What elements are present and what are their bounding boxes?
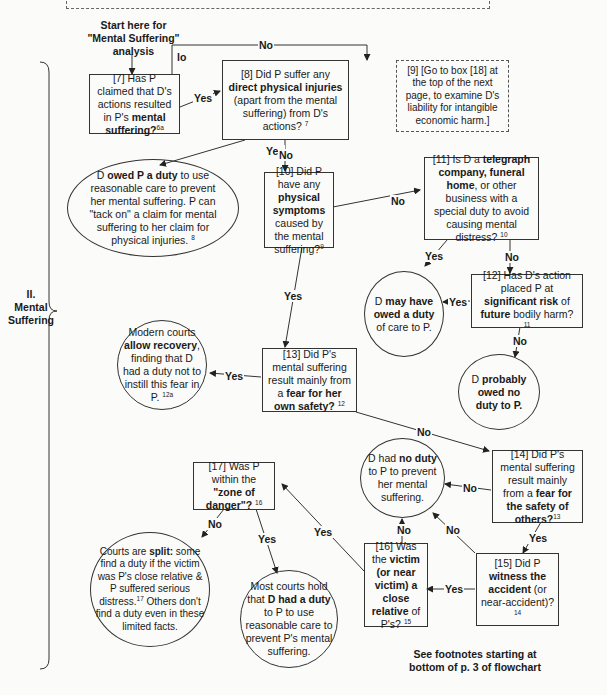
- edge-label-13-to-modern: Yes: [224, 370, 244, 382]
- outcome-most-text: Most courts hold that D had a duty to P …: [245, 580, 333, 658]
- edge-label-17-to-split: No: [207, 518, 223, 530]
- section-title-line1: Mental: [5, 301, 57, 314]
- node-14-text: [14] Did P's mental suffering result mai…: [497, 448, 578, 526]
- start-label: Start here for "Mental Suffering" analys…: [76, 19, 191, 58]
- node-10-text: [10] Did P have any physical symptoms ca…: [269, 165, 329, 256]
- edge-label-15-to-16: Yes: [444, 583, 464, 595]
- edge-label-11-to-may: Yes: [424, 250, 444, 262]
- edge-label-7-stub: lo: [176, 51, 187, 63]
- edge-label-17-to-most: Yes: [257, 533, 277, 545]
- outcome-courts-split[interactable]: Courts are split: some find a duty if th…: [90, 532, 210, 647]
- edge-label-16-to-17: Yes: [313, 526, 333, 538]
- section-title-line2: Suffering: [5, 314, 57, 327]
- edge-label-7-to-9: No: [258, 39, 274, 51]
- node-8-direct-physical-injuries[interactable]: [8] Did P suffer any direct physical inj…: [222, 60, 349, 140]
- edge-label-14-to-15: Yes: [528, 532, 548, 544]
- node-17-text: [17] Was P within the "zone of danger"? …: [198, 460, 270, 512]
- edge-label-11-to-12: No: [504, 251, 520, 263]
- node-16-text: [16] Was the victim (or near victim) a c…: [369, 540, 423, 631]
- node-11-text: [11] Is D a telegraph company, funeral h…: [429, 153, 534, 244]
- section-label: II. Mental Suffering: [5, 288, 57, 327]
- edge-label-12-to-prob: No: [512, 335, 528, 347]
- edge-label-12-to-may: Yes: [448, 296, 468, 308]
- node-9-go-to-box-18[interactable]: [9] [Go to box [18] at the top of the ne…: [396, 60, 509, 132]
- node-16-close-relative[interactable]: [16] Was the victim (or near victim) a c…: [364, 543, 428, 627]
- node-9-text: [9] [Go to box [18] at the top of the ne…: [401, 65, 504, 128]
- edge-label-8-to-10: No: [278, 149, 294, 161]
- node-7-claimed-mental-suffering[interactable]: [7] Has P claimed that D's actions resul…: [89, 74, 180, 134]
- outcome-no-duty[interactable]: D had no duty to P to prevent her mental…: [360, 438, 445, 518]
- outcome-probably-no-duty[interactable]: D probably owed no duty to P.: [458, 354, 540, 430]
- start-line3: analysis: [76, 45, 191, 58]
- node-13-fear-own-safety[interactable]: [13] Did P's mental suffering result mai…: [262, 348, 357, 412]
- edge-label-10-to-11: No: [390, 195, 406, 207]
- start-line1: Start here for: [76, 19, 191, 32]
- start-line2: "Mental Suffering": [76, 32, 191, 45]
- outcome-may-have-owed-duty[interactable]: D may have owed a duty of care to P.: [364, 271, 444, 357]
- node-14-fear-safety-others[interactable]: [14] Did P's mental suffering result mai…: [492, 450, 583, 523]
- footnote-reference: See footnotes starting at bottom of p. 3…: [395, 648, 555, 674]
- node-11-special-duty-business[interactable]: [11] Is D a telegraph company, funeral h…: [424, 157, 539, 240]
- node-13-text: [13] Did P's mental suffering result mai…: [267, 348, 352, 413]
- edge-label-16-to-noduty: No: [396, 524, 412, 536]
- outcome-owed-duty[interactable]: D owed P a duty to use reasonable care t…: [67, 159, 239, 257]
- node-7-text: [7] Has P claimed that D's actions resul…: [94, 72, 175, 137]
- outcome-owed-duty-text: D owed P a duty to use reasonable care t…: [82, 169, 224, 247]
- edge-label-13-to-14: No: [416, 426, 432, 438]
- node-15-witness-accident[interactable]: [15] Did P witness the accident (or near…: [476, 553, 559, 626]
- outcome-split-text: Courts are split: some find a duty if th…: [95, 546, 205, 634]
- edge-label-15-to-noduty: No: [445, 524, 461, 536]
- node-8-text: [8] Did P suffer any direct physical inj…: [227, 68, 344, 133]
- outcome-probably-text: D probably owed no duty to P.: [467, 373, 531, 412]
- footnote-line2: bottom of p. 3 of flowchart: [395, 661, 555, 674]
- footnote-line1: See footnotes starting at: [395, 648, 555, 661]
- node-17-zone-of-danger[interactable]: [17] Was P within the "zone of danger"? …: [193, 462, 275, 510]
- node-15-text: [15] Did P witness the accident (or near…: [481, 557, 554, 622]
- section-number: II.: [5, 288, 57, 301]
- outcome-modern-courts-allow-recovery[interactable]: Modern courts allow recovery, finding th…: [117, 320, 207, 410]
- node-12-text: [12] Has D's action placed P at signific…: [476, 269, 578, 334]
- flowchart-canvas: II. Mental Suffering Start here for "Men…: [0, 0, 607, 695]
- outcome-most-courts-duty[interactable]: Most courts hold that D had a duty to P …: [240, 570, 338, 668]
- edge-label-10-to-13: Yes: [283, 290, 303, 302]
- node-12-significant-risk[interactable]: [12] Has D's action placed P at signific…: [471, 274, 583, 328]
- outcome-no-duty-text: D had no duty to P to prevent her mental…: [367, 452, 438, 504]
- outcome-modern-text: Modern courts allow recovery, finding th…: [122, 326, 202, 404]
- node-10-physical-symptoms[interactable]: [10] Did P have any physical symptoms ca…: [264, 172, 334, 248]
- outcome-may-text: D may have owed a duty of care to P.: [371, 295, 437, 334]
- edge-label-7-to-8: Yes: [193, 92, 213, 104]
- edge-label-14-to-noduty: No: [462, 482, 478, 494]
